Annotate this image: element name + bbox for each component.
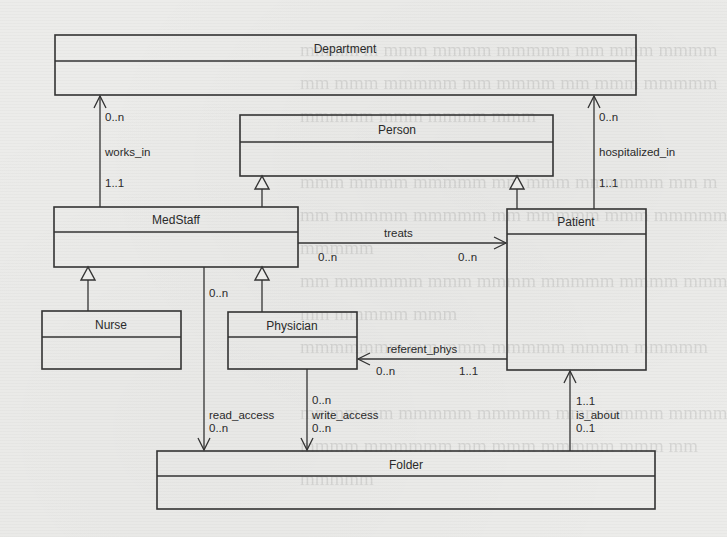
class-patient[interactable]: Patient — [507, 209, 646, 370]
class-name: Folder — [389, 458, 423, 472]
association-name: is_about — [576, 409, 620, 421]
generalization-arrow-icon — [510, 176, 524, 189]
generalization-arrow-icon — [255, 176, 269, 189]
multiplicity-label: 1..1 — [576, 395, 595, 407]
association-write-access: 0..n write_access 0..n — [301, 369, 379, 450]
generalization-arrow-icon — [255, 267, 269, 280]
association-hospitalized-in: 0..n hospitalized_in 1..1 — [588, 96, 675, 209]
class-name: MedStaff — [152, 213, 200, 227]
multiplicity-label: 0..n — [209, 287, 228, 299]
generalization-nurse-medstaff — [81, 267, 95, 311]
multiplicity-label: 0..n — [376, 365, 395, 377]
multiplicity-label: 0..n — [318, 251, 337, 263]
association-treats: treats 0..n 0..n — [298, 227, 506, 263]
multiplicity-label: 0..n — [599, 111, 618, 123]
multiplicity-label: 0..n — [458, 251, 477, 263]
association-name: hospitalized_in — [599, 146, 675, 158]
generalization-patient-person — [510, 176, 524, 209]
class-name: Nurse — [95, 318, 127, 332]
class-name: Person — [378, 123, 416, 137]
generalization-physician-medstaff — [255, 267, 269, 312]
multiplicity-label: 0..n — [105, 111, 124, 123]
multiplicity-label: 0..n — [312, 394, 331, 406]
class-person[interactable]: Person — [240, 115, 553, 176]
generalization-medstaff-person — [255, 176, 269, 207]
association-name: write_access — [311, 409, 379, 421]
association-works-in: 0..n works_in 1..1 — [94, 96, 150, 207]
uml-class-diagram: Department Person MedStaff Patient Nurse… — [0, 0, 727, 537]
class-nurse[interactable]: Nurse — [42, 311, 181, 369]
association-name: read_access — [209, 409, 274, 421]
class-name: Patient — [557, 215, 595, 229]
association-read-access: 0..n read_access 0..n — [198, 267, 274, 450]
association-is-about: 1..1 is_about 0..1 — [564, 371, 620, 451]
association-name: treats — [384, 227, 413, 239]
class-department[interactable]: Department — [55, 35, 636, 95]
association-name: works_in — [104, 146, 150, 158]
multiplicity-label: 1..1 — [459, 365, 478, 377]
class-medstaff[interactable]: MedStaff — [54, 207, 298, 267]
multiplicity-label: 0..n — [312, 422, 331, 434]
multiplicity-label: 0..1 — [576, 422, 595, 434]
generalization-arrow-icon — [81, 267, 95, 280]
class-folder[interactable]: Folder — [157, 451, 655, 509]
class-box — [507, 209, 646, 370]
association-name: referent_phys — [387, 343, 458, 355]
multiplicity-label: 1..1 — [105, 177, 124, 189]
class-name: Physician — [266, 319, 317, 333]
class-name: Department — [314, 42, 377, 56]
class-physician[interactable]: Physician — [228, 312, 357, 369]
multiplicity-label: 1..1 — [599, 177, 618, 189]
multiplicity-label: 0..n — [209, 422, 228, 434]
association-referent-phys: referent_phys 0..n 1..1 — [358, 343, 507, 377]
